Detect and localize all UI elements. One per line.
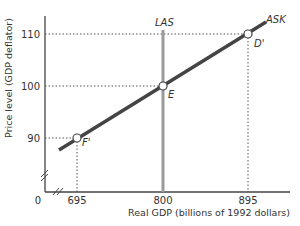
label-las: LAS: [155, 17, 174, 28]
point-e: [159, 82, 167, 90]
ytick-100: 100: [21, 81, 40, 92]
label-f-prime: F': [82, 137, 91, 148]
xtick-895: 895: [238, 195, 257, 206]
label-d-prime: D': [254, 38, 264, 49]
x-axis-title: Real GDP (billions of 1992 dollars): [128, 207, 290, 218]
xtick-695: 695: [67, 195, 86, 206]
point-f-prime: [73, 134, 81, 142]
xtick-0: 0: [35, 195, 41, 206]
guide-lines: [45, 34, 248, 192]
ytick-110: 110: [21, 29, 40, 40]
ytick-90: 90: [27, 133, 40, 144]
point-d-prime: [244, 30, 252, 38]
chart: D' E F' LAS ASK 110 100 90 0 695 800 895…: [0, 0, 300, 226]
label-e: E: [168, 89, 175, 100]
xtick-800: 800: [153, 195, 172, 206]
y-axis-title: Price level (GDP deflator): [3, 18, 14, 138]
label-ask: ASK: [265, 14, 287, 25]
